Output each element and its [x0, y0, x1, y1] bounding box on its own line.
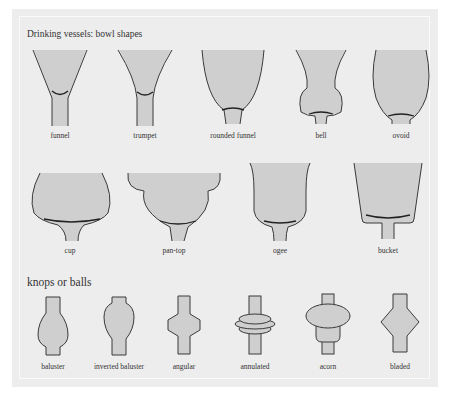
diagram-title: Drinking vessels: bowl shapes — [27, 29, 142, 39]
bell-shape — [293, 48, 349, 128]
trumpet-shape — [115, 48, 175, 128]
trumpet-label: trumpet — [133, 131, 156, 140]
bladed-knop-shape — [379, 292, 421, 354]
cup-shape — [30, 171, 112, 243]
knops-section-title: knops or balls — [27, 276, 92, 288]
inverted-baluster-label: inverted baluster — [94, 362, 144, 371]
bladed-label: bladed — [390, 362, 410, 371]
annulated-knop-shape — [233, 294, 277, 356]
acorn-knop-shape — [304, 292, 352, 356]
bell-label: bell — [315, 131, 326, 140]
ovoid-shape — [370, 48, 432, 128]
rounded-funnel-shape — [198, 48, 268, 128]
funnel-shape — [30, 48, 90, 128]
angular-label: angular — [173, 362, 196, 371]
acorn-label: acorn — [320, 362, 337, 371]
ogee-label: ogee — [273, 246, 287, 255]
bucket-shape — [352, 161, 424, 243]
inverted-baluster-knop-shape — [102, 295, 136, 357]
funnel-label: funnel — [50, 131, 69, 140]
annulated-label: annulated — [240, 362, 269, 371]
rounded-funnel-label: rounded funnel — [210, 131, 256, 140]
pan-top-label: pan-top — [163, 246, 186, 255]
pan-top-shape — [126, 171, 222, 243]
angular-knop-shape — [166, 294, 202, 356]
bucket-label: bucket — [378, 246, 398, 255]
ogee-shape — [248, 161, 312, 243]
baluster-knop-shape — [36, 295, 70, 357]
baluster-label: baluster — [41, 362, 65, 371]
ovoid-label: ovoid — [392, 131, 409, 140]
cup-label: cup — [65, 246, 76, 255]
